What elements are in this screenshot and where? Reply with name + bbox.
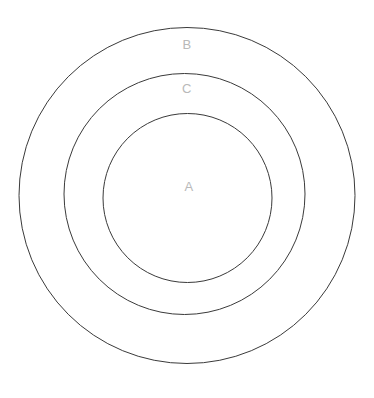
region-label-c: C bbox=[182, 81, 192, 96]
concentric-circles-diagram: B C A bbox=[0, 0, 374, 398]
region-label-b: B bbox=[182, 37, 191, 52]
region-label-a: A bbox=[184, 179, 193, 194]
diagram-canvas: B C A bbox=[0, 0, 374, 398]
diagram-background bbox=[0, 0, 374, 398]
